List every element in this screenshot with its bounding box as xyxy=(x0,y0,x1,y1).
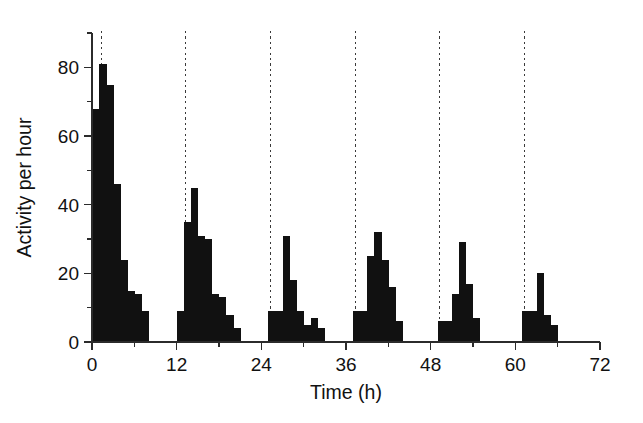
bar xyxy=(388,287,395,342)
y-tick-label: 60 xyxy=(58,126,79,147)
bar xyxy=(290,280,297,342)
x-tick-label: 0 xyxy=(87,354,98,375)
bar xyxy=(395,321,402,342)
bar xyxy=(318,328,325,342)
bar xyxy=(92,109,99,342)
bar xyxy=(374,232,381,342)
x-tick-label: 12 xyxy=(166,354,187,375)
bar xyxy=(304,325,311,342)
bar xyxy=(106,85,113,343)
bar xyxy=(226,315,233,342)
bar xyxy=(311,318,318,342)
bar xyxy=(205,239,212,342)
x-tick-label: 60 xyxy=(505,354,526,375)
bar xyxy=(268,311,275,342)
bar xyxy=(473,318,480,342)
bar xyxy=(134,294,141,342)
bar xyxy=(522,311,529,342)
y-tick-label: 20 xyxy=(58,263,79,284)
activity-histogram-figure: 0204060800122436486072Time (h)Activity p… xyxy=(0,0,643,423)
bar xyxy=(113,184,120,342)
bar xyxy=(219,297,226,342)
y-axis-label: Activity per hour xyxy=(13,117,35,257)
bar xyxy=(367,256,374,342)
bar xyxy=(381,260,388,342)
bar xyxy=(184,222,191,342)
bar xyxy=(529,311,536,342)
chart-canvas: 0204060800122436486072Time (h)Activity p… xyxy=(0,0,643,423)
bar xyxy=(233,328,240,342)
bar xyxy=(297,311,304,342)
bar xyxy=(177,311,184,342)
bar xyxy=(438,321,445,342)
y-tick-label: 40 xyxy=(58,195,79,216)
bar xyxy=(353,311,360,342)
bar xyxy=(551,325,558,342)
bar xyxy=(459,242,466,342)
bar xyxy=(283,236,290,342)
axis-group xyxy=(84,33,600,350)
y-tick-label: 80 xyxy=(58,57,79,78)
bar xyxy=(120,260,127,342)
bar-group xyxy=(92,64,558,342)
bar xyxy=(445,321,452,342)
bar xyxy=(452,294,459,342)
x-tick-label: 24 xyxy=(251,354,273,375)
bar xyxy=(99,64,106,342)
bar xyxy=(466,284,473,342)
y-tick-label: 0 xyxy=(68,332,79,353)
x-tick-label: 36 xyxy=(335,354,356,375)
bar xyxy=(127,291,134,343)
x-axis-label: Time (h) xyxy=(310,381,382,403)
bar xyxy=(212,294,219,342)
x-tick-label: 72 xyxy=(589,354,610,375)
bar xyxy=(141,311,148,342)
bar xyxy=(191,188,198,343)
bar xyxy=(544,315,551,342)
bar xyxy=(275,311,282,342)
bar xyxy=(198,236,205,342)
x-tick-label: 48 xyxy=(420,354,441,375)
bar xyxy=(537,273,544,342)
bar xyxy=(360,311,367,342)
